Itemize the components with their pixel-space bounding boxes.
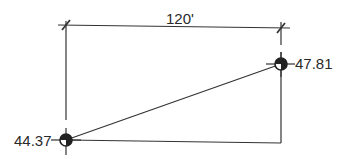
benchmark-marker-right (275, 58, 287, 70)
dimension-label: 120' (166, 11, 194, 26)
benchmark-marker-left (60, 134, 72, 146)
slope-diagram: 120' 44.37 47.81 (0, 0, 341, 166)
slope-line (66, 64, 281, 140)
elevation-label-right: 47.81 (295, 56, 333, 71)
base-line (66, 140, 281, 143)
elevation-label-left: 44.37 (14, 133, 52, 148)
